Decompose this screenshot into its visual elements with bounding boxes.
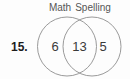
math-circle [38,17,97,76]
math-only-value: 6 [51,39,58,54]
venn-diagram-worksheet-item: Math Spelling 15. 6 13 5 [0,0,130,79]
venn-diagram: Math Spelling 15. 6 13 5 [0,0,130,79]
intersection-value: 13 [72,39,86,54]
item-number: 15. [11,40,28,54]
spelling-only-value: 5 [99,39,106,54]
math-label: Math [49,2,71,13]
spelling-label: Spelling [75,2,111,13]
